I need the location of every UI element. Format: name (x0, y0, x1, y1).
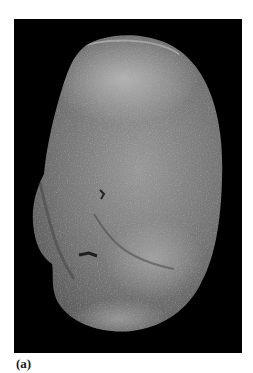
specimen-image (14, 19, 242, 353)
photo-panel (14, 19, 242, 353)
figure-label: (a) (16, 357, 31, 371)
